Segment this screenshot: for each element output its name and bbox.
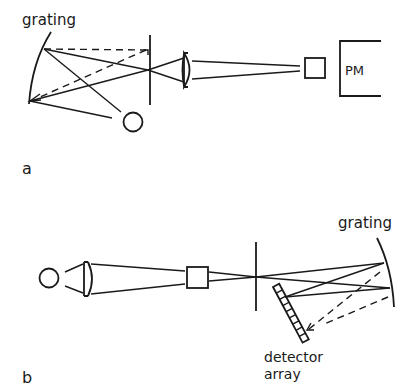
panel-b-source-circle-icon: [40, 269, 59, 288]
panel-a-grating: [29, 32, 51, 104]
panel-a-label: a: [22, 159, 32, 178]
panel-b-ray: [65, 264, 83, 272]
panel-a-ray: [148, 58, 184, 70]
panel-a-source-circle-icon: [124, 113, 143, 132]
panel-b-detector-label-line2: array: [264, 366, 301, 382]
panel-b-detector-label-line1: detector: [264, 349, 323, 365]
panel-a-dashed-ray: [44, 49, 146, 50]
panel-b-detector-array: [273, 284, 309, 343]
panel-b-ray: [209, 277, 256, 281]
panel-b: grating detector array b: [22, 214, 394, 387]
panel-a-ray: [148, 70, 184, 82]
panel-a-arrowhead: [30, 94, 41, 101]
panel-b-ray: [65, 286, 83, 293]
panel-a-pm-label: PM: [345, 63, 364, 78]
panel-a-ray: [30, 101, 112, 118]
panel-a: grating PM a: [22, 11, 381, 178]
panel-a-ray: [192, 61, 300, 66]
panel-b-ray: [285, 288, 390, 297]
panel-b-label: b: [22, 368, 32, 387]
panel-b-grating-label: grating: [338, 214, 392, 232]
panel-a-lens: [184, 53, 190, 87]
panel-a-ray: [44, 49, 148, 70]
panel-b-lens: [84, 262, 92, 296]
panel-b-ray: [209, 272, 256, 277]
panel-a-sample-cell: [305, 58, 325, 78]
panel-a-ray: [192, 71, 300, 79]
panel-b-dashed-ray: [309, 272, 380, 329]
panel-b-ray: [91, 284, 185, 294]
optical-diagram: grating PM a: [0, 0, 416, 390]
panel-a-grating-label: grating: [22, 11, 76, 29]
panel-b-sample-cell: [187, 267, 208, 288]
panel-b-ray: [91, 264, 185, 271]
